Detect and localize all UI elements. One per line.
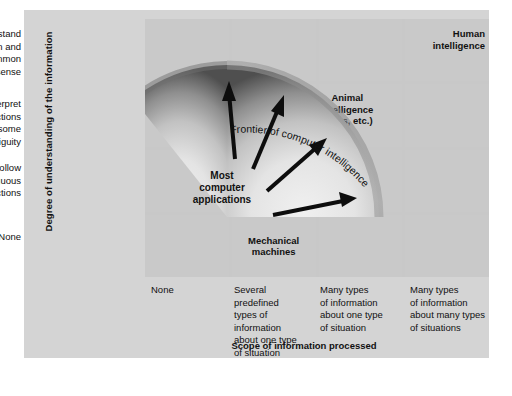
label-line: machines <box>232 246 316 258</box>
x-tick-line: Several <box>234 284 320 297</box>
y-tick-line: situation and <box>0 41 21 54</box>
y-tick-line: containing some <box>0 123 21 136</box>
cell-r1c2 <box>232 19 316 81</box>
label-animal-intelligence: Animal intelligence (dogs, etc.) <box>300 92 394 127</box>
x-tick-line: of information <box>320 297 412 310</box>
label-line: Mechanical <box>232 235 316 247</box>
x-tick-line: Many types <box>410 284 510 297</box>
label-line: Human <box>433 28 485 40</box>
x-tick-line: about one type <box>320 309 412 322</box>
x-axis-title: Scope of information processed <box>134 340 474 351</box>
x-tick-line: Many types <box>320 284 412 297</box>
label-line: intelligence <box>433 40 485 52</box>
x-tick-line: information <box>234 322 320 335</box>
cell-r2c1 <box>145 84 229 146</box>
x-tick-line: of situation <box>320 322 412 335</box>
y-tick-line: Follow <box>0 162 21 175</box>
y-tick-line: Understand <box>0 28 21 41</box>
cell-r4c3 <box>319 215 403 277</box>
y-tick-line: use common <box>0 53 21 66</box>
cell-r2c4 <box>405 84 489 146</box>
y-tick-line: instructions <box>0 111 21 124</box>
x-tick-many-many-situations: Many types of information about many typ… <box>410 284 510 334</box>
cell-r3c4 <box>405 150 489 212</box>
label-mechanical-machines: Mechanical machines <box>232 235 316 258</box>
label-line: applications <box>172 194 272 206</box>
x-tick-line: types of <box>234 309 320 322</box>
y-tick-understand: Understand situation and use common sens… <box>0 28 21 78</box>
x-tick-line: of situations <box>410 322 510 335</box>
cell-r1c3 <box>319 19 403 81</box>
label-most-computer-applications: Most computer applications <box>172 170 272 206</box>
y-tick-follow: Follow unambiguous instructions <box>0 162 21 200</box>
cell-r1c1 <box>145 19 229 81</box>
label-line: (dogs, etc.) <box>300 115 394 127</box>
y-tick-line: unambiguous <box>0 175 21 188</box>
cell-r1c4: Human intelligence <box>405 19 489 81</box>
label-human-intelligence: Human intelligence <box>433 28 485 51</box>
cell-r2c3: Animal intelligence (dogs, etc.) <box>319 84 403 146</box>
y-tick-interpret: Interpret instructions containing some a… <box>0 98 21 148</box>
x-tick-line: None <box>151 284 231 297</box>
cell-r3c3 <box>319 150 403 212</box>
y-tick-line: sense <box>0 66 21 79</box>
matrix-grid: Human intelligence Animal intelligence (… <box>145 19 489 277</box>
y-tick-none: None <box>0 231 21 244</box>
x-tick-line: of information <box>410 297 510 310</box>
x-tick-none: None <box>151 284 231 297</box>
y-tick-line: None <box>0 231 21 244</box>
y-tick-line: Interpret <box>0 98 21 111</box>
cell-r4c1 <box>145 215 229 277</box>
x-tick-line: predefined <box>234 297 320 310</box>
y-axis-title: Degree of understanding of the informati… <box>43 12 54 252</box>
label-line: Most <box>172 170 272 182</box>
y-tick-line: instructions <box>0 187 21 200</box>
cell-r4c2: Mechanical machines <box>232 215 316 277</box>
cell-r4c4 <box>405 215 489 277</box>
label-line: Animal <box>300 92 394 104</box>
x-tick-line: about many types <box>410 309 510 322</box>
label-line: intelligence <box>300 104 394 116</box>
y-tick-line: ambiguity <box>0 136 21 149</box>
label-line: computer <box>172 182 272 194</box>
diagram-figure: Degree of understanding of the informati… <box>24 10 489 358</box>
x-tick-many-one-situation: Many types of information about one type… <box>320 284 412 334</box>
